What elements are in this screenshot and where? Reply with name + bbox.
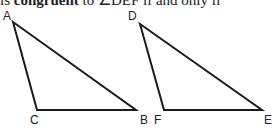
congruent-triangles-figure: A C B D F E [0, 0, 275, 139]
label-a: A [3, 9, 11, 23]
label-b: B [140, 113, 148, 127]
label-d: D [128, 9, 137, 23]
label-e: E [264, 113, 272, 127]
label-f: F [154, 113, 161, 127]
triangle-def [140, 24, 262, 110]
label-c: C [30, 113, 39, 127]
triangle-abc [13, 22, 136, 110]
